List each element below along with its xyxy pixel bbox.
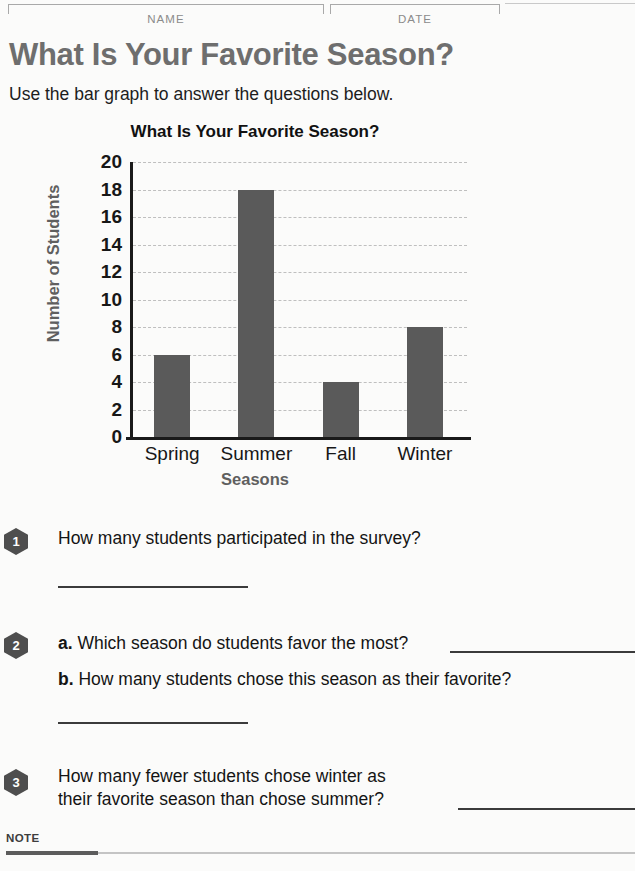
bar-chart: What Is Your Favorite Season? Number of … — [0, 122, 635, 507]
question-2b-body: How many students chose this season as t… — [78, 669, 511, 689]
chart-bar-summer — [238, 190, 274, 438]
question-2a-answer-blank[interactable] — [450, 651, 635, 653]
chart-y-tick-label: 18 — [101, 178, 122, 200]
chart-x-tick-label: Fall — [325, 443, 356, 465]
chart-gridline — [133, 190, 467, 191]
chart-y-tick-label: 4 — [111, 371, 122, 393]
question-1-answer-blank[interactable] — [58, 586, 248, 588]
question-3-text-line-1: How many fewer students chose winter as — [58, 766, 386, 787]
chart-x-tick-label: Winter — [397, 443, 452, 465]
question-2a-label: a. — [58, 633, 73, 653]
chart-y-axis-label: Number of Students — [44, 164, 63, 364]
chart-title: What Is Your Favorite Season? — [0, 122, 510, 142]
question-1-text: How many students participated in the su… — [58, 528, 421, 549]
chart-gridline — [133, 300, 467, 301]
chart-y-tick-label: 2 — [111, 398, 122, 420]
chart-x-tick-label: Spring — [145, 443, 200, 465]
question-2b-answer-blank[interactable] — [58, 722, 248, 724]
chart-plot-area: 20181614121086420 SpringSummerFallWinter — [130, 162, 467, 437]
question-2b-label: b. — [58, 669, 74, 689]
chart-y-tick-label: 16 — [101, 206, 122, 228]
chart-gridline — [133, 217, 467, 218]
chart-y-tick-label: 20 — [101, 151, 122, 173]
chart-y-tick-label: 10 — [101, 288, 122, 310]
chart-y-tick-label: 6 — [111, 343, 122, 365]
page-title: What Is Your Favorite Season? — [9, 37, 454, 73]
chart-y-tick-label: 14 — [101, 233, 122, 255]
note-label: NOTE — [6, 832, 40, 844]
question-2b-text: b. How many students chose this season a… — [58, 669, 511, 690]
chart-y-tick-label: 12 — [101, 261, 122, 283]
question-3-text-line-2: their favorite season than chose summer? — [58, 789, 384, 810]
chart-y-tick-label: 8 — [111, 316, 122, 338]
chart-bar-winter — [407, 327, 443, 437]
question-3-answer-blank[interactable] — [458, 808, 635, 810]
question-1-badge: 1 — [4, 528, 28, 555]
question-2-badge: 2 — [4, 632, 28, 659]
chart-y-tick-label: 0 — [111, 426, 122, 448]
chart-gridline — [133, 245, 467, 246]
worksheet-header: NAME DATE — [0, 0, 635, 34]
chart-bar-spring — [154, 355, 190, 438]
page-instruction: Use the bar graph to answer the question… — [9, 84, 393, 105]
question-2a-body: Which season do students favor the most? — [77, 633, 408, 653]
chart-bar-fall — [323, 382, 359, 437]
chart-x-axis-label: Seasons — [0, 470, 510, 489]
question-3-badge: 3 — [4, 769, 28, 796]
name-field-label: NAME — [8, 13, 324, 25]
header-corner-rule — [505, 3, 635, 4]
question-2a-text: a. Which season do students favor the mo… — [58, 633, 408, 654]
chart-x-tick-label: Summer — [220, 443, 292, 465]
chart-gridline — [133, 272, 467, 273]
chart-gridline — [133, 162, 467, 163]
note-rule-dark — [6, 851, 98, 855]
date-field-label: DATE — [330, 13, 500, 25]
chart-x-axis-line — [126, 437, 471, 440]
note-rule-light — [98, 852, 635, 854]
